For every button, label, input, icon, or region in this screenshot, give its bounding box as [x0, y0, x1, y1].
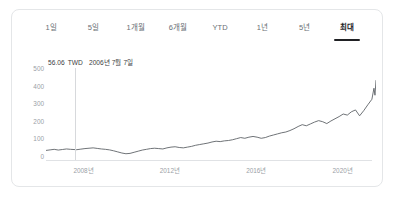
y-tick-300: 300: [33, 100, 44, 107]
y-tick-500: 500: [33, 65, 44, 72]
range-tab-5y[interactable]: 5년: [284, 14, 326, 43]
range-tab-1m[interactable]: 1개월: [115, 14, 157, 43]
range-tab-5d[interactable]: 5일: [72, 14, 114, 43]
plot-wrapper: 500 400 300 200 100 0 2008년 2012년 2016년 …: [12, 46, 382, 186]
x-tick-2020: 2020년: [333, 167, 353, 174]
range-tab-6m[interactable]: 6개월: [157, 14, 199, 43]
x-tick-2008: 2008년: [73, 167, 93, 174]
x-axis: 2008년 2012년 2016년 2020년: [46, 164, 372, 176]
axis-baseline: [46, 160, 372, 161]
range-tab-5y-label: 5년: [299, 23, 310, 32]
price-line-chart: [46, 68, 376, 160]
chart-area[interactable]: 56.06TWD2006년 7월 7일 500 400 300 200 100 …: [12, 46, 382, 186]
range-tab-max-label: 최대: [340, 23, 354, 32]
range-tab-6m-label: 6개월: [169, 23, 187, 32]
range-tab-bar: 1일 5일 1개월 6개월 YTD 1년 5년 최대: [12, 10, 382, 46]
y-tick-200: 200: [33, 117, 44, 124]
range-tab-ytd[interactable]: YTD: [199, 14, 241, 43]
stock-price-chart-card: 1일 5일 1개월 6개월 YTD 1년 5년 최대 56.06TWD2006년…: [11, 9, 383, 187]
range-tab-ytd-label: YTD: [212, 23, 227, 32]
range-tab-max[interactable]: 최대: [326, 14, 368, 43]
y-tick-0: 0: [40, 153, 44, 160]
range-tab-1d[interactable]: 1일: [30, 14, 72, 43]
x-tick-2012: 2012년: [160, 167, 180, 174]
crosshair-line: [75, 68, 76, 160]
x-tick-2016: 2016년: [246, 167, 266, 174]
range-tab-5d-label: 5일: [88, 23, 99, 32]
range-tab-1m-label: 1개월: [126, 23, 144, 32]
y-tick-100: 100: [33, 135, 44, 142]
range-tab-1y-label: 1년: [257, 23, 268, 32]
active-tab-underline: [334, 39, 360, 41]
y-tick-400: 400: [33, 82, 44, 89]
y-axis: 500 400 300 200 100 0: [18, 68, 44, 156]
range-tab-1d-label: 1일: [45, 23, 56, 32]
range-tab-1y[interactable]: 1년: [241, 14, 283, 43]
